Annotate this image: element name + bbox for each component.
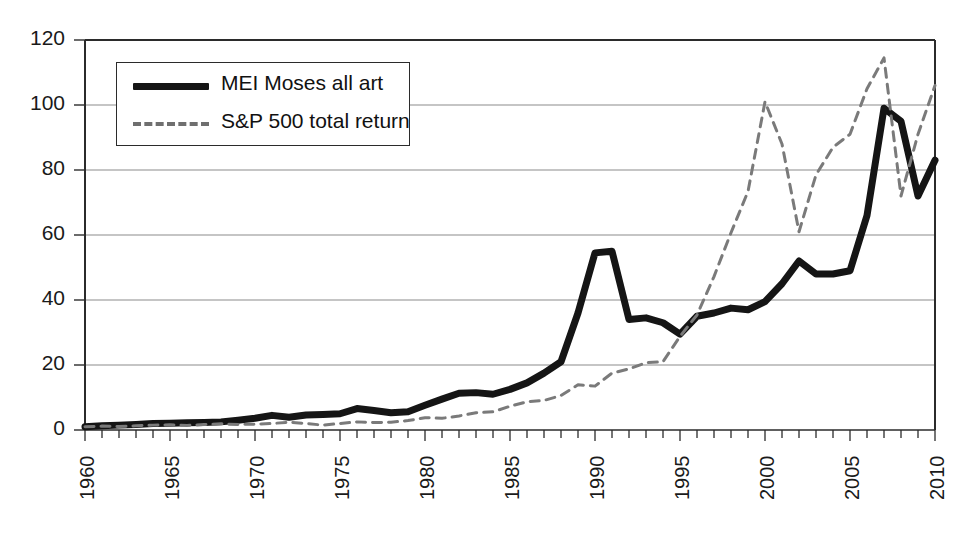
x-tick-label: 1970	[246, 456, 269, 501]
legend-label-mei-moses: MEI Moses all art	[221, 71, 383, 95]
y-tick-marks	[74, 40, 85, 430]
x-tick-label: 2010	[926, 456, 949, 501]
legend-label-sp500: S&P 500 total return	[221, 109, 410, 133]
solid-line-swatch-icon	[133, 83, 209, 90]
x-tick-label: 1975	[331, 456, 354, 501]
y-tick-label: 60	[5, 221, 65, 245]
x-tick-label: 2005	[841, 456, 864, 501]
legend-item-mei-moses: MEI Moses all art	[117, 67, 409, 105]
x-tick-label: 2000	[756, 456, 779, 501]
y-tick-label: 100	[5, 91, 65, 115]
x-tick-label: 1965	[161, 456, 184, 501]
x-tick-label: 1990	[586, 456, 609, 501]
y-tick-label: 20	[5, 351, 65, 375]
y-tick-label: 80	[5, 156, 65, 180]
x-tick-label: 1985	[501, 456, 524, 501]
legend-item-sp500: S&P 500 total return	[117, 105, 409, 143]
series-line-mei-moses	[85, 108, 935, 427]
x-minor-ticks	[85, 430, 935, 441]
chart-figure: 120100806040200 196019651970197519801985…	[0, 0, 970, 534]
y-tick-label: 0	[5, 416, 65, 440]
x-tick-label: 1995	[671, 456, 694, 501]
chart-legend: MEI Moses all art S&P 500 total return	[116, 62, 410, 146]
y-tick-label: 40	[5, 286, 65, 310]
dashed-line-swatch-icon	[133, 122, 209, 126]
y-tick-label: 120	[5, 26, 65, 50]
x-tick-label: 1960	[76, 456, 99, 501]
x-tick-label: 1980	[416, 456, 439, 501]
